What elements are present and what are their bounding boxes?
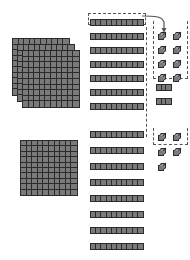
hundred-flat [20,140,78,196]
three-rod [156,98,172,105]
diagram-canvas [0,0,190,260]
unit-cube [173,48,179,54]
ten-rod [90,179,144,186]
unit-cube [173,76,179,82]
unit-cube [158,150,164,156]
ten-rod [90,103,144,110]
unit-cube [173,150,179,156]
ten-rod [90,89,144,96]
unit-cube [158,135,164,141]
unit-cube [158,62,164,68]
unit-cube [158,34,164,40]
unit-cube [173,34,179,40]
unit-cube [158,165,164,171]
ten-rod [90,33,144,40]
ten-rod [90,163,144,170]
unit-cube [158,76,164,82]
unit-cube [158,48,164,54]
ten-rod [90,195,144,202]
ten-rod [90,47,144,54]
unit-cube [173,62,179,68]
unit-cube [173,135,179,141]
ten-rod [90,19,144,26]
ten-rod [90,75,144,82]
regroup-outline-right-channel [146,27,188,137]
three-rod [156,84,172,91]
hundred-flat [22,50,80,108]
ten-rod [90,147,144,154]
ten-rod [90,211,144,218]
ten-rod [90,243,144,250]
ten-rod [90,61,144,68]
ten-rod [90,227,144,234]
ten-rod [90,131,144,138]
